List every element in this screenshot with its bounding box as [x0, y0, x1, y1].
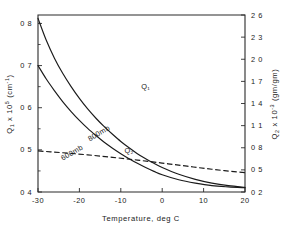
- bottom-axis-tick-labels: -30-20-1001020: [32, 196, 250, 205]
- right-tick-label: 2 3: [251, 33, 263, 42]
- left-tick-label: 0 5: [20, 145, 32, 154]
- left-tick-label: 0 6: [20, 103, 32, 112]
- chart-figure: 0 40 50 60 70 8 0 20 50 81 11 41 72 02 3…: [0, 0, 287, 230]
- y-axis-units-close: ): [5, 74, 14, 77]
- chart-canvas: 0 40 50 60 70 8 0 20 50 81 11 41 72 02 3…: [0, 0, 287, 230]
- curve-label-q2: Q₂: [124, 146, 133, 155]
- y-axis-mult: x 10: [5, 104, 14, 121]
- curve-label-800mb: 800mb: [86, 123, 111, 143]
- curve-800mb: [38, 18, 245, 187]
- right-tick-label: 2 0: [251, 55, 263, 64]
- right-tick-label: 1 7: [251, 77, 263, 86]
- y2-axis-units: (gm/gm): [270, 69, 279, 101]
- left-axis-tick-labels: 0 40 50 60 70 8: [20, 19, 32, 197]
- right-tick-label: 0 8: [251, 143, 263, 152]
- bottom-tick-label: 20: [240, 196, 249, 205]
- left-tick-label: 0 7: [20, 61, 32, 70]
- left-tick-label: 0 8: [20, 19, 32, 28]
- right-tick-label: 0 2: [251, 188, 263, 197]
- svg-text:Q2 x 10-3 (gm/gm): Q2 x 10-3 (gm/gm): [269, 69, 280, 140]
- right-axis-ticks: [241, 15, 245, 192]
- bottom-tick-label: -10: [115, 196, 127, 205]
- curve-label-q1: Q₁: [141, 82, 150, 91]
- svg-text:Q1 x 105 (cm-1): Q1 x 105 (cm-1): [4, 74, 15, 134]
- y-axis-title: Q1 x 105 (cm-1): [4, 74, 15, 134]
- left-axis-ticks: [38, 23, 42, 192]
- left-tick-label: 0 4: [20, 188, 32, 197]
- x-axis-title: Temperature, deg C: [102, 214, 180, 223]
- right-tick-label: 2 6: [251, 11, 263, 20]
- y2-axis-title: Q2 x 10-3 (gm/gm): [269, 69, 280, 140]
- right-axis-tick-labels: 0 20 50 81 11 41 72 02 32 6: [251, 11, 263, 197]
- right-tick-label: 1 4: [251, 99, 263, 108]
- bottom-tick-label: 0: [160, 196, 165, 205]
- right-tick-label: 0 5: [251, 165, 263, 174]
- bottom-tick-label: 10: [199, 196, 208, 205]
- data-curves: [38, 18, 245, 187]
- y-axis-units: (cm: [5, 83, 14, 97]
- y2-axis-mult: x 10: [270, 110, 279, 127]
- bottom-axis-ticks: [38, 188, 245, 192]
- curve-label-600mb: 600mb: [59, 143, 84, 163]
- right-tick-label: 1 1: [251, 121, 263, 130]
- bottom-tick-label: -20: [73, 196, 85, 205]
- bottom-tick-label: -30: [32, 196, 44, 205]
